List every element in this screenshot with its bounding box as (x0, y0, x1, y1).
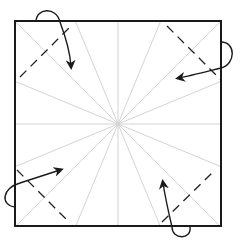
crease-line (15, 21, 118, 124)
origami-diagram (0, 0, 243, 244)
valley-fold-top-left (20, 24, 73, 77)
fold-arrow-icon-top-left (36, 11, 71, 66)
valley-fold-bottom-right (162, 170, 215, 222)
valley-fold-top-right (167, 26, 221, 80)
valley-fold-bottom-left (17, 170, 70, 223)
fold-arrow-icon-bottom-left (5, 170, 60, 207)
fold-arrow-icon-top-right (179, 42, 232, 78)
crease-line (16, 124, 118, 226)
fold-arrow-icon-bottom-right (163, 183, 190, 237)
